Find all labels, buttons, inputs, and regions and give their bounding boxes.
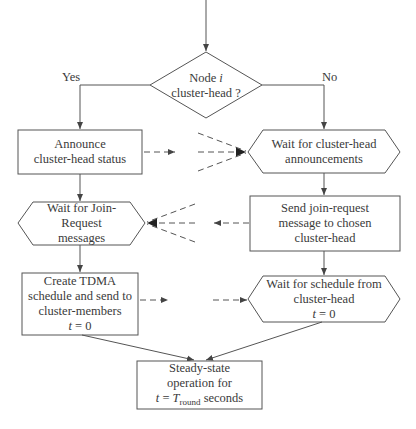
wait-join-line-2: Request	[61, 216, 101, 231]
fan-join-1	[147, 204, 195, 222]
send-join-line-2: message to chosen	[278, 216, 371, 231]
steady-T-sub: round	[180, 397, 201, 407]
announce-node: Announce cluster-head status	[18, 130, 142, 174]
wait-schedule-node: Wait for schedule from cluster-head t = …	[258, 276, 390, 322]
tdma-to-steady-arrow	[82, 335, 194, 360]
wait-ann-line-2: announcements	[285, 152, 363, 167]
tdma-time-eq: = 0	[72, 319, 92, 333]
decision-node: Node i cluster-head ?	[160, 68, 252, 104]
tdma-line-3: cluster-members	[38, 304, 121, 319]
wait-sched-line-2: cluster-head	[294, 292, 355, 307]
create-tdma-node: Create TDMA schedule and send to cluster…	[22, 273, 138, 335]
wait-sched-time-eq: = 0	[316, 307, 336, 321]
steady-state-node: Steady-state operation for t = Tround se…	[137, 361, 262, 409]
decision-line2: cluster-head ?	[171, 86, 241, 101]
tdma-line-1: Create TDMA	[44, 274, 116, 289]
announce-line-1: Announce	[54, 137, 105, 152]
fan-line-1	[198, 133, 246, 151]
wait-sched-line-1: Wait for schedule from	[266, 277, 381, 292]
decision-line1: Node	[189, 71, 216, 85]
wait-ann-line-1: Wait for cluster-head	[272, 137, 377, 152]
send-join-line-1: Send join-request	[281, 201, 369, 216]
send-join-node: Send join-request message to chosen clus…	[250, 196, 400, 251]
wait-join-node: Wait for Join- Request messages	[28, 202, 135, 245]
steady-line-1: Steady-state	[169, 361, 230, 376]
no-label: No	[322, 70, 337, 85]
announce-line-2: cluster-head status	[34, 152, 126, 167]
no-branch-line	[262, 85, 324, 129]
tdma-line-2: schedule and send to	[28, 289, 132, 304]
wait-announcements-node: Wait for cluster-head announcements	[258, 130, 390, 173]
steady-suffix: seconds	[201, 391, 244, 405]
yes-branch-line	[80, 85, 150, 129]
waitsched-to-steady-arrow	[206, 322, 322, 360]
fan-line-3	[198, 153, 246, 171]
wait-join-line-3: messages	[58, 231, 105, 246]
steady-time-eq: =	[159, 391, 172, 405]
send-join-line-3: cluster-head	[295, 231, 356, 246]
yes-label: Yes	[62, 70, 80, 85]
fan-join-3	[147, 224, 195, 242]
steady-line-2: operation for	[167, 376, 232, 391]
wait-join-line-1: Wait for Join-	[47, 201, 116, 216]
decision-var: i	[219, 71, 222, 85]
steady-T: T	[173, 391, 180, 405]
